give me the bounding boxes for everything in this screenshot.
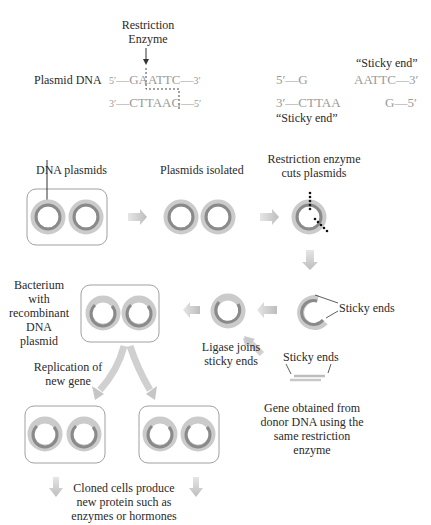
restriction-cuts-label-1: Restriction enzyme	[264, 152, 364, 166]
enzyme-label-line2: Enzyme	[118, 32, 178, 46]
replication-label-1: Replication of	[28, 360, 108, 374]
bacterium-label-5: plasmid	[8, 334, 70, 348]
cut-right-top: AATTC—3′	[354, 72, 418, 87]
gene-sticky-ends-label: Sticky ends	[283, 350, 333, 364]
flow-arrow-left	[257, 302, 277, 318]
flow-arrow-down	[49, 477, 63, 497]
box-dna-plasmids	[27, 189, 107, 245]
cloned-label-2: new protein such as	[70, 495, 178, 509]
gene-obtained-label-4: enzyme	[258, 443, 366, 457]
dna-strand-bottom: 3′—CTTAAG—5′	[109, 95, 201, 111]
replication-label-2: new gene	[28, 374, 108, 388]
flow-arrow-curved-right	[130, 346, 150, 390]
plasmid-dna-label: Plasmid DNA	[34, 73, 102, 87]
flow-arrow-left	[183, 302, 200, 318]
flow-arrow-down	[302, 250, 318, 270]
sticky-end-label-top: “Sticky end”	[356, 56, 418, 70]
cloned-label-1: Cloned cells produce	[70, 481, 178, 495]
bacterium-label-1: Bacterium	[8, 278, 70, 292]
box-clone-2	[139, 406, 219, 463]
gene-obtained-label-2: donor DNA using the	[258, 415, 366, 429]
flow-arrow-right	[260, 209, 279, 225]
box-clone-1	[25, 406, 105, 463]
dna-plasmids-label: DNA plasmids	[36, 163, 107, 177]
enzyme-label-line1: Restriction	[118, 18, 178, 32]
restriction-cuts-label-2: cuts plasmids	[264, 166, 364, 180]
plasmid-ring	[167, 203, 195, 231]
flow-arrow-down	[189, 477, 203, 497]
gene-fragment	[286, 364, 331, 380]
enzyme-pointer-arrow	[143, 48, 149, 65]
flow-arrow-right	[128, 209, 147, 225]
gene-obtained-label-1: Gene obtained from	[258, 401, 366, 415]
plasmids-isolated-label: Plasmids isolated	[160, 163, 244, 177]
plasmid-ring-cut	[295, 203, 323, 231]
plasmid-ring-recombinant	[214, 297, 242, 325]
sticky-ends-label: Sticky ends	[339, 301, 395, 315]
gene-obtained-label-3: same restriction	[258, 429, 366, 443]
cut-left-top: 5′—G	[276, 72, 308, 87]
bacterium-label-4: DNA	[8, 320, 70, 334]
plasmid-open-sticky-ends	[301, 299, 325, 327]
bacterium-label-2: with	[8, 292, 70, 306]
ligase-label-2: sticky ends	[196, 354, 266, 368]
dna-strand-top: 5′—GAATTC—3′	[109, 72, 201, 88]
sticky-end-label-bottom: “Sticky end”	[276, 111, 338, 125]
plasmid-ring	[204, 203, 232, 231]
cloned-label-3: enzymes or hormones	[70, 509, 178, 523]
cut-right-bottom: G—5′	[385, 95, 417, 110]
cut-left-bottom: 3′—CTTAA	[276, 95, 341, 110]
bacterium-label-3: recombinant	[8, 306, 70, 320]
ligase-label-1: Ligase joins	[196, 340, 266, 354]
